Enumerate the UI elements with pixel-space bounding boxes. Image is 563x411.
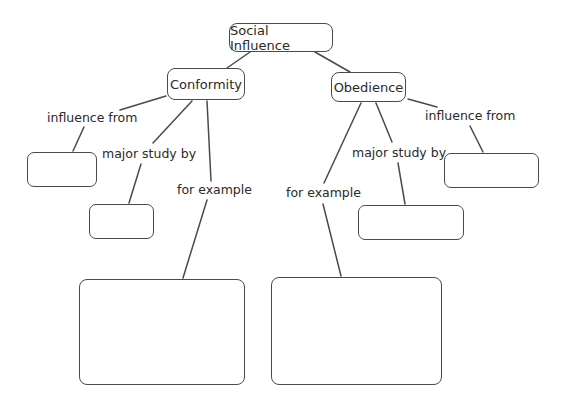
connector-obedience-study (376, 103, 392, 142)
link-label-conformity-example: for example (177, 183, 252, 197)
link-label-conformity-study: major study by (102, 147, 196, 161)
link-label-obedience-influence: influence from (425, 109, 515, 123)
node-label: Social Influence (230, 23, 332, 53)
connector-root-obedience (315, 52, 350, 72)
link-label-conformity-influence: influence from (47, 111, 137, 125)
blank-box-conformity-example[interactable] (79, 279, 245, 385)
connector-obedience-example (324, 103, 361, 183)
connector-example-box-right (323, 204, 341, 276)
connector-conformity-influence (120, 96, 166, 110)
connector-obedience-influence (408, 99, 437, 107)
connector-example-box-left (183, 200, 207, 278)
connector-influence-box-right (470, 126, 483, 152)
blank-box-obedience-example[interactable] (271, 277, 442, 385)
connector-root-conformity (227, 52, 250, 68)
connector-conformity-example (207, 101, 211, 181)
connector-influence-box-left (73, 127, 84, 151)
node-social-influence[interactable]: Social Influence (229, 23, 333, 52)
node-obedience[interactable]: Obedience (331, 72, 406, 102)
node-label: Conformity (170, 77, 242, 92)
blank-box-conformity-influence[interactable] (27, 152, 97, 187)
connector-study-box-right (398, 163, 405, 204)
blank-box-obedience-influence[interactable] (444, 153, 539, 188)
link-label-obedience-example: for example (286, 186, 361, 200)
node-label: Obedience (334, 80, 404, 95)
node-conformity[interactable]: Conformity (167, 68, 245, 100)
blank-box-obedience-study[interactable] (358, 205, 464, 240)
connector-study-box-left (129, 164, 141, 203)
connector-conformity-study (153, 101, 192, 143)
link-label-obedience-study: major study by (352, 146, 446, 160)
blank-box-conformity-study[interactable] (89, 204, 154, 239)
